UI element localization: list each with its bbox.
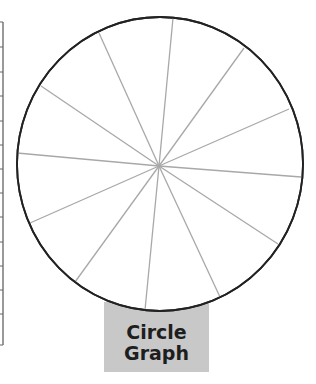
circle-graph [0, 0, 316, 384]
